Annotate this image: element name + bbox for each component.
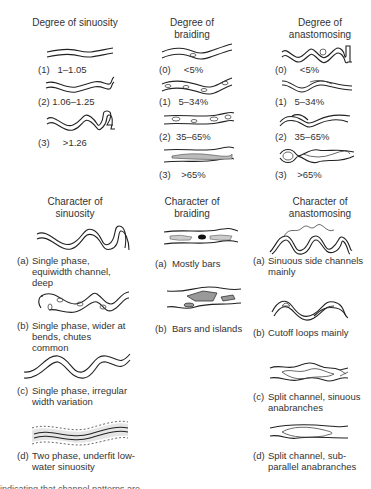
braiding-2-sketch — [162, 112, 237, 128]
char-braiding-a-sketch — [162, 228, 240, 248]
braiding-0-sketch — [160, 44, 235, 64]
char-sinuosity-item-d: (d)Two phase, underfit low-water sinuosi… — [17, 450, 137, 472]
anastomosing-2-sketch — [278, 112, 353, 130]
char-anastomosing-d-sketch — [268, 420, 350, 444]
sinuosity-1-sketch — [45, 44, 115, 64]
anastomosing-item-2: (2) 35–65% — [275, 131, 329, 142]
heading-degree-braiding: Degree of braiding — [152, 17, 232, 41]
sinuosity-item-2: (2) 1.06–1.25 — [38, 96, 95, 107]
braiding-item-1: (1) 5–34% — [159, 96, 208, 107]
heading-degree-sinuosity: Degree of sinuosity — [30, 17, 120, 29]
heading-character-anastomosing: Character of anastomosing — [275, 196, 365, 220]
anastomosing-item-0: (0) <5% — [275, 64, 319, 75]
footer-caption-cut: indicating that channel patterns are ... — [0, 484, 371, 489]
char-sinuosity-c-sketch — [22, 352, 132, 380]
char-anastomosing-item-a: (a)Sinuous side channels mainly — [253, 255, 371, 277]
char-sinuosity-d-sketch — [30, 420, 130, 450]
char-braiding-item-b: (b) Bars and islands — [155, 323, 242, 334]
braiding-item-3: (3) >65% — [159, 169, 206, 180]
heading-degree-anastomosing: Degree of anastomosing — [275, 17, 365, 41]
anastomosing-0-sketch — [280, 44, 355, 66]
char-anastomosing-item-b: (b)Cutoff loops mainly — [253, 327, 371, 338]
sinuosity-item-1: (1) 1–1.05 — [38, 64, 87, 75]
char-sinuosity-item-c: (c)Single phase, irregular width variati… — [17, 385, 132, 407]
char-sinuosity-a-sketch — [35, 224, 130, 252]
char-anastomosing-c-sketch — [268, 362, 350, 386]
anastomosing-1-sketch — [280, 78, 355, 96]
sinuosity-2-sketch — [44, 77, 116, 95]
anastomosing-item-1: (1) 5–34% — [275, 96, 324, 107]
heading-character-braiding: Character of braiding — [152, 196, 232, 220]
char-sinuosity-item-b: (b)Single phase, wider at bends, chutes … — [17, 320, 132, 353]
char-braiding-b-sketch — [165, 285, 243, 315]
anastomosing-item-3: (3) >65% — [275, 169, 322, 180]
char-sinuosity-item-a: (a)Single phase, equiwidth channel, deep — [17, 255, 132, 288]
braiding-item-2: (2) 35–65% — [159, 131, 211, 142]
char-sinuosity-b-sketch — [35, 290, 130, 320]
char-braiding-item-a: (a) Mostly bars — [155, 258, 220, 269]
heading-character-sinuosity: Character of sinuosity — [30, 196, 120, 220]
sinuosity-item-3: (3) >1.26 — [38, 137, 87, 148]
braiding-item-0: (0) <5% — [159, 64, 203, 75]
sinuosity-3-sketch — [45, 109, 115, 133]
char-anastomosing-a-sketch — [268, 222, 353, 256]
char-anastomosing-item-d: (d)Split channel, sub-parallel anabranch… — [253, 450, 371, 472]
char-anastomosing-b-sketch — [270, 296, 350, 322]
anastomosing-3-sketch — [278, 146, 358, 170]
char-anastomosing-item-c: (c)Split channel, sinuous anabranches — [253, 391, 371, 413]
braiding-1-sketch — [160, 78, 235, 96]
braiding-3-sketch — [162, 146, 237, 166]
